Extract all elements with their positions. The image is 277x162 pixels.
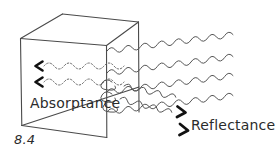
transmitted-wave-2 [107,54,233,74]
figure-number: 8.4 [14,132,35,147]
reflected-arrowhead-2 [180,124,189,135]
transmitted-waves-group [107,32,233,113]
cube-top-face-edge-back [63,14,139,22]
diagram-sketch [0,0,277,162]
reflected-waves-group [120,84,176,112]
transmitted-wave-3 [107,73,233,93]
label-absorptance: Absorptance [30,95,120,111]
absorbed-arrowhead-1 [36,62,43,71]
reflected-arrowhead-1 [177,107,186,118]
reflected-arrowheads-group [177,107,188,136]
cube-top-face-edge-left [21,14,63,39]
cube-group [21,14,140,138]
transmitted-wave-4 [107,93,233,113]
absorbed-arrowhead-2 [36,78,43,87]
cube-top-face-edge-front [21,39,107,46]
label-reflectance: Reflectance [191,117,275,133]
cube-top-face-edge-right [107,22,139,46]
transmitted-wave-1 [107,32,233,52]
absorbed-arrowheads-group [36,62,43,87]
cube-front-edge-left [21,39,22,126]
cube-side-edge-right-back [139,22,140,112]
absorbed-wave-1 [44,63,124,69]
figure-container: Absorptance Reflectance 8.4 [0,0,277,162]
